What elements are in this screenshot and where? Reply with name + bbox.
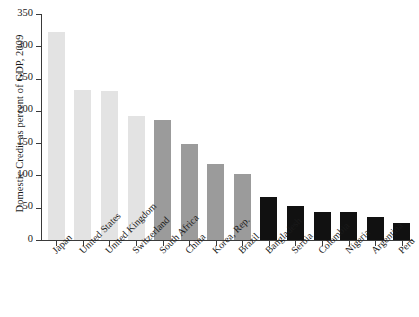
y-axis-tick-label: 250	[17, 71, 33, 82]
y-axis-tick-label: 300	[17, 39, 33, 50]
y-axis-tick: 50	[36, 208, 41, 209]
y-axis-line	[41, 14, 42, 240]
bar	[260, 197, 277, 240]
y-axis-tick: 0	[36, 240, 41, 241]
y-axis-tick-label: 150	[17, 136, 33, 147]
plot-area: 050100150200250300350	[41, 14, 413, 240]
y-axis-tick: 100	[36, 175, 41, 176]
y-axis-tick-label: 100	[17, 168, 33, 179]
y-axis-tick: 250	[36, 79, 41, 80]
y-axis-tick: 300	[36, 46, 41, 47]
bar	[207, 164, 224, 240]
y-axis-tick: 350	[36, 14, 41, 15]
bar	[74, 90, 91, 240]
y-axis-tick-label: 350	[17, 7, 33, 18]
y-axis-tick-label: 50	[23, 200, 34, 211]
y-axis-tick: 200	[36, 111, 41, 112]
bar-chart: Domestic Credit as percent of GDP, 2009 …	[0, 0, 419, 317]
x-axis-labels: JapanUnited StatesUnited KingdomSwitzerl…	[41, 248, 419, 317]
bar	[48, 32, 65, 240]
y-axis-tick-label: 0	[28, 233, 33, 244]
y-axis-tick-label: 200	[17, 103, 33, 114]
y-axis-tick: 150	[36, 143, 41, 144]
